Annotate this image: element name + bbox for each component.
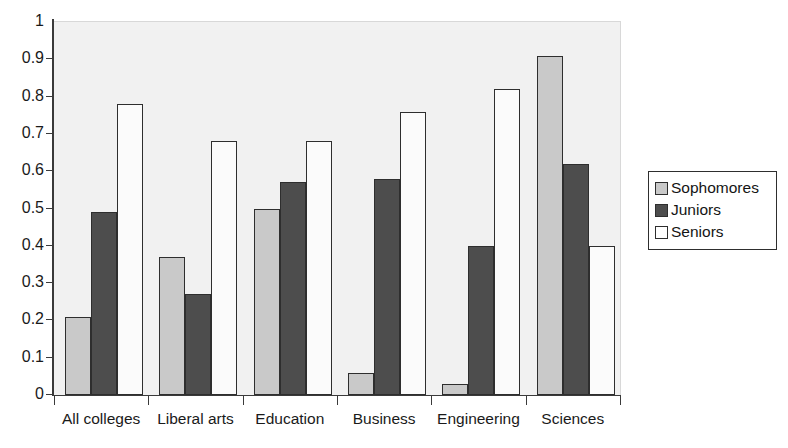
bar-sophomores-education — [254, 209, 280, 396]
y-tick-mark — [46, 133, 52, 134]
bar-seniors-all-colleges — [117, 104, 143, 395]
bar-seniors-engineering — [494, 89, 520, 395]
y-tick-label: 0.3 — [0, 274, 44, 290]
bar-group — [526, 22, 620, 395]
bar-seniors-business — [400, 112, 426, 395]
legend-swatch-icon — [655, 182, 668, 195]
legend-item-sophomores: Sophomores — [655, 177, 770, 199]
x-tick-mark — [620, 396, 621, 405]
y-tick-mark — [46, 170, 52, 171]
bar-group — [243, 22, 337, 395]
x-axis-label: Liberal arts — [148, 409, 242, 437]
bar-group — [54, 22, 148, 395]
bar-group — [148, 22, 242, 395]
x-tick-mark — [243, 396, 244, 405]
plot-area — [54, 21, 621, 395]
y-tick-label: 0.9 — [0, 50, 44, 66]
y-tick-mark — [46, 208, 52, 209]
bar-juniors-engineering — [468, 246, 494, 395]
bar-juniors-education — [280, 182, 306, 395]
legend-item-seniors: Seniors — [655, 221, 770, 243]
y-tick-mark — [46, 96, 52, 97]
bar-group — [337, 22, 431, 395]
x-tick-mark — [337, 396, 338, 405]
y-tick-mark — [46, 319, 52, 320]
y-tick-label: 0.7 — [0, 125, 44, 141]
x-tick-mark — [526, 396, 527, 405]
legend-swatch-icon — [655, 204, 668, 217]
legend: Sophomores Juniors Seniors — [648, 171, 777, 250]
legend-label: Sophomores — [671, 180, 759, 196]
y-tick-mark — [46, 58, 52, 59]
bar-sophomores-liberal-arts — [159, 257, 185, 395]
x-axis-labels: All collegesLiberal artsEducationBusines… — [54, 409, 620, 437]
bar-groups — [54, 22, 620, 395]
y-tick-label: 0.5 — [0, 200, 44, 216]
y-tick-label: 0.2 — [0, 311, 44, 327]
bar-juniors-all-colleges — [91, 212, 117, 395]
bar-juniors-business — [374, 179, 400, 395]
y-tick-label: 0.8 — [0, 88, 44, 104]
legend-item-juniors: Juniors — [655, 199, 770, 221]
legend-label: Juniors — [671, 202, 721, 218]
x-axis-label: All colleges — [54, 409, 148, 437]
bar-sophomores-all-colleges — [65, 317, 91, 395]
bar-group — [431, 22, 525, 395]
x-axis-label: Sciences — [526, 409, 620, 437]
bar-sophomores-engineering — [442, 384, 468, 395]
y-tick-label: 0.6 — [0, 162, 44, 178]
legend-swatch-icon — [655, 226, 668, 239]
y-tick-label: 1 — [0, 13, 44, 29]
y-tick-mark — [46, 245, 52, 246]
bar-chart: 1 0.9 0.8 0.7 0.6 0.5 0.4 0.3 0.2 0.1 0 … — [0, 0, 788, 448]
y-axis: 1 0.9 0.8 0.7 0.6 0.5 0.4 0.3 0.2 0.1 0 — [0, 21, 44, 394]
bar-sophomores-sciences — [537, 56, 563, 395]
legend-label: Seniors — [671, 224, 724, 240]
y-tick-mark — [46, 282, 52, 283]
x-tick-mark — [54, 396, 55, 405]
x-axis-label: Education — [243, 409, 337, 437]
bar-juniors-liberal-arts — [185, 294, 211, 395]
x-axis-label: Engineering — [431, 409, 525, 437]
y-tick-label: 0.4 — [0, 237, 44, 253]
x-axis-label: Business — [337, 409, 431, 437]
y-tick-label: 0.1 — [0, 349, 44, 365]
y-tick-mark — [46, 394, 52, 395]
bar-seniors-sciences — [589, 246, 615, 395]
y-tick-mark — [46, 357, 52, 358]
y-tick-label: 0 — [0, 386, 44, 402]
bar-juniors-sciences — [563, 164, 589, 395]
x-tick-mark — [431, 396, 432, 405]
bar-seniors-education — [306, 141, 332, 395]
x-tick-mark — [148, 396, 149, 405]
bar-seniors-liberal-arts — [211, 141, 237, 395]
bar-sophomores-business — [348, 373, 374, 395]
